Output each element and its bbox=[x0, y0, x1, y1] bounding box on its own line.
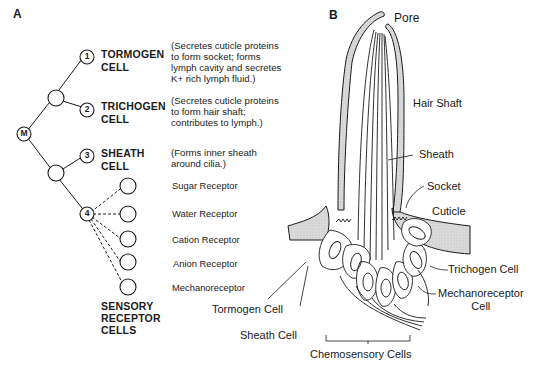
trichogen-cell-label: Trichogen Cell bbox=[448, 263, 519, 275]
chemosensory-cells-label: Chemosensory Cells bbox=[310, 348, 411, 360]
socket-label: Socket bbox=[427, 180, 461, 192]
sheath-cell-label: Sheath Cell bbox=[240, 329, 297, 341]
cuticle-left bbox=[288, 206, 329, 240]
sheath-label: Sheath bbox=[419, 148, 454, 160]
hair-shaft-label: Hair Shaft bbox=[413, 97, 462, 109]
cuticle-label: Cuticle bbox=[432, 205, 466, 217]
hair-shaft-right bbox=[386, 24, 404, 212]
tormogen-cell-label: Tormogen Cell bbox=[212, 303, 283, 315]
mechanoreceptor-cell-label: Mechanoreceptor Cell bbox=[438, 287, 524, 313]
pore-label: Pore bbox=[394, 11, 419, 25]
